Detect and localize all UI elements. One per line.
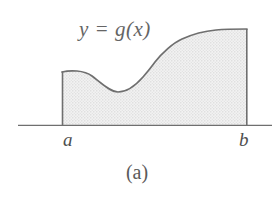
left-bound-label-a: a [63, 129, 73, 151]
right-bound-label-b: b [239, 129, 249, 151]
figure-area-under-curve: y = g(x) a b (a) [0, 0, 274, 197]
figure-caption: (a) [0, 161, 274, 184]
curve-function-label: y = g(x) [79, 17, 151, 42]
shaded-region [62, 29, 247, 125]
